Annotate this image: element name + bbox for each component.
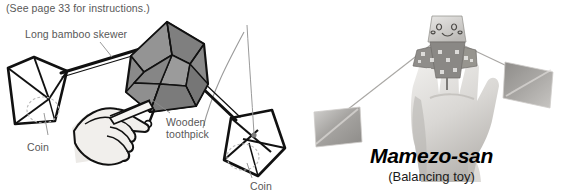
origami-head [428,16,466,42]
label-coin-left: Coin [27,141,49,153]
caption-subtitle: (Balancing toy) [300,169,563,185]
motion-arc-path [203,32,244,128]
pyramid-left-group [8,57,67,124]
label-long-bamboo-skewer: Long bamboo skewer [25,28,127,40]
weight-right-square [503,62,553,108]
leader-skewer [100,42,112,57]
origami-body-group [126,22,208,112]
label-wooden-toothpick: Wooden toothpick [166,116,209,140]
photo-caption-block: Mamezo-san (Balancing toy) [300,143,563,185]
bead-dot [251,132,256,137]
weight-left-square [314,107,362,147]
figure-root: (See page 33 for instructions.) Long bam… [0,0,563,194]
caption-title: Mamezo-san [300,143,563,168]
diagram-panel: (See page 33 for instructions.) Long bam… [0,0,300,194]
label-coin-right: Coin [250,180,272,192]
instructions-note: (See page 33 for instructions.) [6,2,150,14]
photo-panel: Mamezo-san (Balancing toy) [300,0,563,194]
